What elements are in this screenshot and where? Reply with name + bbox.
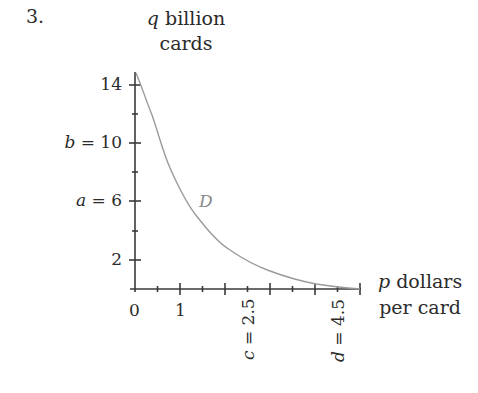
y-tick-val-b: = 10 (75, 132, 122, 152)
y-tick-label-a: a = 6 (32, 190, 122, 210)
x-tick-label-d: d = 4.5 (328, 299, 348, 362)
x-tick-val-d: = 4.5 (328, 299, 348, 351)
x-tick-var-d: d (328, 351, 348, 362)
y-tick-label-b: b = 10 (32, 132, 122, 152)
y-tick-val-a: = 6 (86, 190, 122, 210)
x-tick-label-1: 1 (175, 300, 186, 320)
curve-label-D: D (199, 191, 213, 211)
x-tick-var-c: c (238, 350, 258, 360)
x-tick-label-c: c = 2.5 (238, 298, 258, 360)
demand-curve-D (136, 73, 360, 289)
x-tick-val-c: = 2.5 (238, 298, 258, 350)
y-tick-var-a: a (76, 190, 86, 210)
y-tick-label-14: 14 (32, 74, 122, 94)
y-tick-label-2: 2 (32, 249, 122, 269)
x-tick-label-0: 0 (129, 300, 140, 320)
y-tick-var-b: b (64, 132, 75, 152)
axes (129, 72, 361, 295)
